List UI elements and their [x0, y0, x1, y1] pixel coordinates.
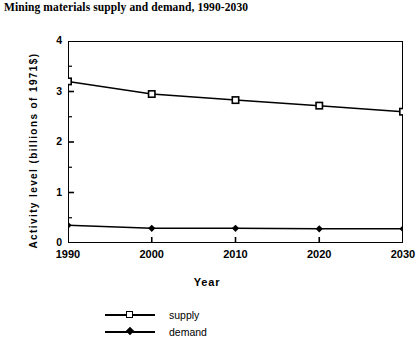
data-point [68, 78, 71, 84]
data-point [148, 225, 155, 232]
filled-diamond-marker-icon [126, 328, 133, 335]
legend-key [105, 307, 155, 323]
data-point [316, 102, 322, 108]
data-point [232, 97, 238, 103]
y-tick-label: 1 [38, 186, 62, 198]
axis-ticks [68, 41, 403, 243]
x-tick-label: 2020 [289, 248, 349, 260]
legend-item-demand: demand [105, 323, 207, 340]
data-point [149, 91, 155, 97]
y-tick-label: 4 [38, 34, 62, 46]
marker-shape [125, 327, 133, 335]
y-tick-label: 2 [38, 135, 62, 147]
legend-label: demand [169, 326, 207, 338]
x-tick-label: 2000 [122, 248, 182, 260]
legend-key [105, 324, 155, 340]
open-square-marker-icon [126, 311, 133, 318]
data-point [400, 109, 403, 115]
y-tick-label: 3 [38, 85, 62, 97]
chart-legend: supplydemand [105, 306, 207, 340]
data-point [316, 225, 323, 232]
x-tick-label: 2010 [206, 248, 266, 260]
legend-label: supply [169, 309, 199, 321]
chart-title: Mining materials supply and demand, 1990… [4, 1, 248, 13]
data-point [399, 225, 403, 232]
y-axis-tick-labels: 01234 [0, 41, 62, 243]
legend-item-supply: supply [105, 306, 207, 323]
series-supply [68, 78, 403, 115]
plot-area [68, 41, 403, 243]
data-point [232, 225, 239, 232]
x-axis-title: Year [0, 276, 414, 288]
y-tick-label: 0 [38, 236, 62, 248]
x-tick-label: 2030 [373, 248, 420, 260]
data-point [68, 222, 72, 229]
series-demand [68, 222, 403, 233]
marker-shape [126, 311, 133, 318]
x-tick-label: 1990 [38, 248, 98, 260]
